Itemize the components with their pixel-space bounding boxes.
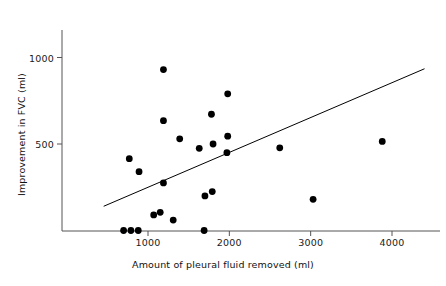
regression-line-segment [104, 69, 425, 207]
data-point [128, 227, 135, 234]
data-point [160, 180, 167, 187]
data-point [120, 227, 127, 234]
data-point [223, 149, 230, 156]
y-tick-label: 1000 [29, 52, 54, 63]
y-axis-title: Improvement in FVC (ml) [16, 73, 27, 196]
data-point [224, 133, 231, 140]
data-point [209, 188, 216, 195]
data-point [379, 138, 386, 145]
data-point [126, 155, 133, 162]
x-tick-label: 4000 [380, 237, 405, 248]
data-point [176, 135, 183, 142]
data-point [276, 144, 283, 151]
data-point [224, 90, 231, 97]
data-point [210, 141, 217, 148]
regression-line [104, 69, 425, 207]
data-point [208, 111, 215, 118]
x-tick-label: 3000 [298, 237, 323, 248]
data-point [170, 217, 177, 224]
y-tick-label: 500 [35, 139, 54, 150]
x-axis-title: Amount of pleural fluid removed (ml) [0, 259, 446, 270]
data-point [160, 66, 167, 73]
data-point [310, 196, 317, 203]
scatter-plot-figure: 10002000300040005001000 Amount of pleura… [0, 0, 446, 286]
x-tick-label: 1000 [136, 237, 161, 248]
data-point [135, 227, 142, 234]
data-point [136, 168, 143, 175]
axes-group [57, 30, 440, 236]
data-points-group [120, 66, 385, 234]
x-tick-label: 2000 [217, 237, 242, 248]
data-point [160, 117, 167, 124]
data-point [196, 145, 203, 152]
data-point [157, 209, 164, 216]
data-point [150, 212, 157, 219]
data-point [202, 193, 209, 200]
data-point [201, 227, 208, 234]
